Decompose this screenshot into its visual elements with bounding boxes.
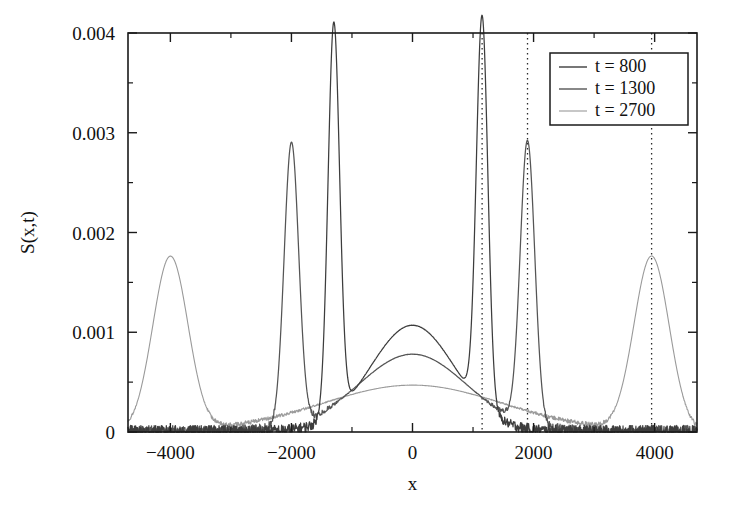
x-tick-label-0: −4000 xyxy=(146,442,195,463)
x-tick-label-4: 4000 xyxy=(636,442,674,463)
plot-figure: −4000−200002000400000.0010.0020.0030.004… xyxy=(0,0,733,509)
series-curve-2700 xyxy=(128,256,697,427)
legend-label-0: t = 800 xyxy=(595,56,646,76)
y-tick-label-0: 0 xyxy=(106,422,116,443)
x-axis-label: x xyxy=(408,473,418,494)
y-tick-label-4: 0.004 xyxy=(72,23,115,44)
y-tick-label-3: 0.003 xyxy=(72,123,115,144)
y-tick-label-2: 0.002 xyxy=(72,223,115,244)
y-tick-label-1: 0.001 xyxy=(72,322,115,343)
series-curve-1300 xyxy=(128,140,697,432)
structure-factor-plot: −4000−200002000400000.0010.0020.0030.004… xyxy=(0,0,733,509)
y-axis-label: S(x,t) xyxy=(17,211,39,254)
x-tick-label-2: 0 xyxy=(408,442,418,463)
legend-label-2: t = 2700 xyxy=(595,100,655,120)
x-tick-label-3: 2000 xyxy=(515,442,553,463)
legend-label-1: t = 1300 xyxy=(595,78,655,98)
x-tick-label-1: −2000 xyxy=(267,442,316,463)
